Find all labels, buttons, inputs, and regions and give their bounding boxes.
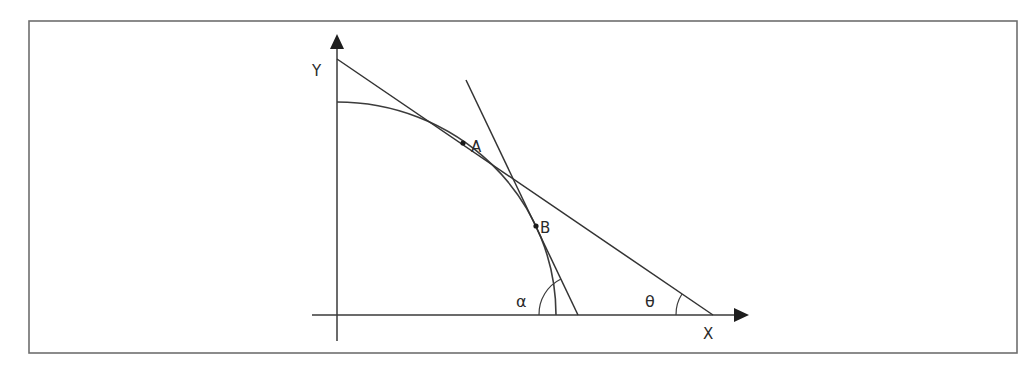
- tangent-line-b: [466, 80, 578, 315]
- x-axis-label: X: [703, 325, 713, 343]
- angle-theta: θ: [645, 292, 682, 315]
- alpha-label: α: [516, 292, 527, 311]
- point-a-dot: [460, 140, 465, 145]
- point-b-dot: [533, 223, 538, 228]
- point-b-label: B: [540, 219, 550, 237]
- x-axis-arrow-icon: [734, 308, 749, 322]
- theta-label: θ: [645, 292, 655, 311]
- tangent-diagram: Y X A B α θ: [0, 0, 1036, 375]
- y-axis: Y: [311, 34, 344, 341]
- point-a-label: A: [471, 138, 482, 156]
- x-axis: X: [312, 308, 749, 343]
- point-a: A: [460, 138, 482, 156]
- tangent-line-a: [337, 59, 713, 315]
- alpha-arc: [539, 279, 561, 315]
- point-b: B: [533, 219, 550, 237]
- y-axis-label: Y: [311, 62, 322, 80]
- y-axis-arrow-icon: [330, 34, 344, 49]
- theta-arc: [676, 294, 682, 315]
